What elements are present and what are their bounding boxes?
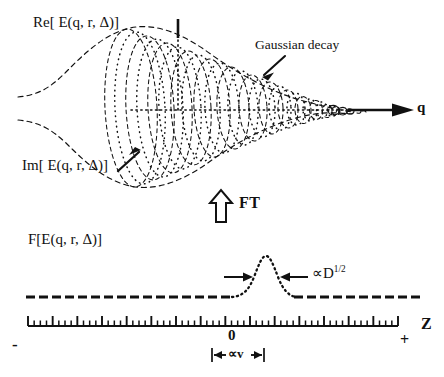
z-axis-label: Z [421, 316, 432, 332]
peak-width-label: ∝D1/2 [312, 265, 346, 281]
imaginary-part-label: Im[ E(q, r, Δ)] [22, 158, 108, 173]
gaussian-decay-label: Gaussian decay [255, 38, 339, 52]
ft-label: FT [239, 195, 260, 211]
gaussian-decay-arrow [262, 56, 285, 81]
z-axis-plus-label: + [400, 332, 409, 348]
peak-width-exponent: 1/2 [334, 264, 346, 274]
z-axis-minus-label: - [12, 336, 18, 353]
q-axis-arrow [348, 104, 414, 117]
velocity-span-label: ∝v [228, 347, 244, 360]
q-axis-label: q [417, 100, 425, 115]
imaginary-part-arrow [118, 147, 141, 171]
fourier-transform-arrow [210, 190, 232, 222]
figure-canvas [0, 0, 444, 377]
real-part-label: Re[ E(q, r, Δ)] [33, 15, 119, 30]
ft-curve [26, 256, 420, 297]
z-axis-zero-label: 0 [228, 328, 236, 343]
ft-function-label: F[E(q, r, Δ)] [28, 232, 102, 247]
z-axis-ticks [28, 316, 398, 326]
peak-width-arrows [224, 273, 308, 282]
helix-rings-dotted [111, 31, 337, 185]
